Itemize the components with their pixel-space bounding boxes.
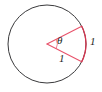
geometry-figure: θ 1 1 — [0, 0, 102, 92]
figure-canvas — [0, 0, 102, 92]
highlighted-arc — [82, 26, 86, 61]
radius-length-label: 1 — [59, 53, 65, 64]
sector-upper-radius — [47, 26, 82, 44]
angle-label-theta: θ — [57, 35, 62, 46]
arc-length-label: 1 — [90, 36, 96, 47]
